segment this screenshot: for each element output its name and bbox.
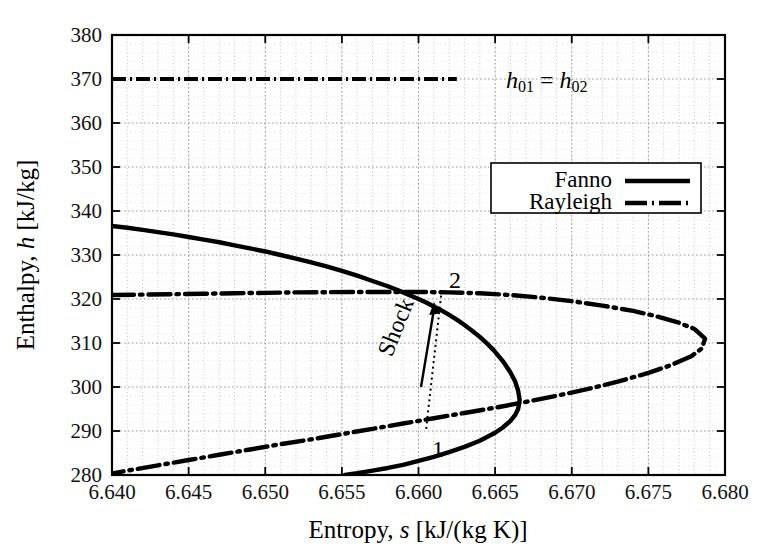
x-axis-title-part2: [kJ/(kg K)] (410, 516, 528, 544)
y-tick-label: 320 (71, 287, 103, 311)
point-2-label: 2 (449, 267, 461, 293)
legend-label-rayleigh: Rayleigh (529, 189, 613, 214)
stagnation-sub2: 02 (572, 78, 588, 95)
y-tick-label: 290 (71, 419, 103, 443)
y-axis-title: Enthalpy, h [kJ/kg] (12, 160, 39, 351)
stagnation-h2: h (560, 67, 572, 93)
y-axis-title-part1: Enthalpy, (12, 249, 39, 350)
y-tick-label: 350 (71, 155, 103, 179)
x-tick-label: 6.650 (242, 480, 289, 504)
y-axis-title-italic: h (12, 237, 39, 250)
x-tick-label: 6.675 (625, 480, 672, 504)
y-tick-label: 280 (71, 463, 103, 487)
stagnation-equals: = (534, 67, 560, 93)
x-tick-label: 6.655 (318, 480, 365, 504)
x-tick-label: 6.670 (548, 480, 595, 504)
x-tick-label: 6.660 (395, 480, 442, 504)
chart-figure: 6.6406.6456.6506.6556.6606.6656.6706.675… (0, 0, 769, 560)
y-tick-label: 370 (71, 67, 103, 91)
x-tick-label: 6.645 (165, 480, 212, 504)
x-axis-title-part1: Entropy, (308, 516, 399, 543)
point-1-label: 1 (432, 436, 444, 462)
y-axis-title-part2: [kJ/kg] (12, 160, 39, 237)
x-tick-labels: 6.6406.6456.6506.6556.6606.6656.6706.675… (88, 480, 748, 504)
y-tick-label: 310 (71, 331, 103, 355)
x-axis-title: Entropy, s [kJ/(kg K)] (308, 516, 527, 544)
legend: Fanno Rayleigh (491, 163, 701, 214)
x-axis-title-italic: s (400, 516, 410, 543)
enthalpy-entropy-chart: 6.6406.6456.6506.6556.6606.6656.6706.675… (0, 0, 769, 560)
x-tick-label: 6.665 (472, 480, 519, 504)
y-tick-label: 330 (71, 243, 103, 267)
y-tick-label: 300 (71, 375, 103, 399)
y-tick-label: 380 (71, 23, 103, 47)
stagnation-h1: h (506, 67, 518, 93)
x-tick-label: 6.680 (701, 480, 748, 504)
y-tick-label: 360 (71, 111, 103, 135)
y-tick-label: 340 (71, 199, 103, 223)
stagnation-sub1: 01 (518, 78, 534, 95)
